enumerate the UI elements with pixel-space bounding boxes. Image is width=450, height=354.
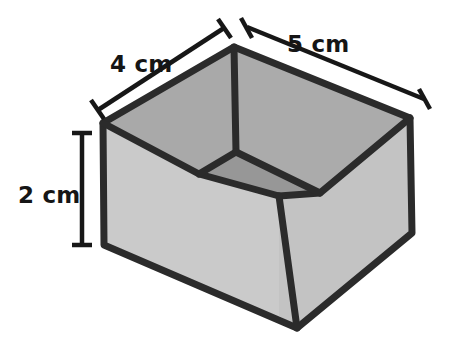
dimension-label-width: 5 cm [287,31,349,57]
dimension-height-2cm: 2 cm [18,133,92,245]
inner-vertical-edge-back [234,47,236,152]
dimension-label-depth: 4 cm [110,51,172,77]
figure-canvas: 4 cm 5 cm 2 cm [0,0,450,354]
dimension-label-height: 2 cm [18,182,80,208]
box-diagram-svg: 4 cm 5 cm 2 cm [0,0,450,354]
box-solid [103,47,412,328]
